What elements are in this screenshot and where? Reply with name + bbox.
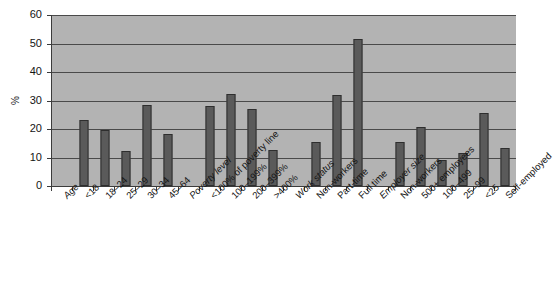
bar xyxy=(227,94,236,186)
x-tick-mark xyxy=(51,187,52,191)
y-tick-label: 20 xyxy=(18,123,42,134)
x-tick-mark xyxy=(135,187,136,191)
bar-slot xyxy=(368,15,389,186)
bar-slot xyxy=(305,15,326,186)
bar-slot xyxy=(263,15,284,186)
bar-slot xyxy=(453,15,474,186)
bar xyxy=(142,105,151,186)
bar-slot xyxy=(495,15,516,186)
bar-slot xyxy=(242,15,263,186)
x-tick-mark xyxy=(72,187,73,191)
bar-slot xyxy=(432,15,453,186)
bar-slot xyxy=(73,15,94,186)
bar xyxy=(501,148,510,186)
bar-slot xyxy=(136,15,157,186)
bar xyxy=(206,106,215,186)
plot-area xyxy=(51,15,516,187)
x-tick-mark xyxy=(93,187,94,191)
bar-slot xyxy=(221,15,242,186)
bar-slot xyxy=(347,15,368,186)
x-tick-mark xyxy=(431,187,432,191)
bar xyxy=(311,142,320,186)
x-tick-mark xyxy=(388,187,389,191)
x-tick-mark xyxy=(114,187,115,191)
bar xyxy=(480,113,489,186)
x-tick-mark xyxy=(452,187,453,191)
bar-slot xyxy=(326,15,347,186)
bars-layer xyxy=(52,15,516,186)
x-tick-mark xyxy=(283,187,284,191)
bar-slot xyxy=(474,15,495,186)
x-tick-mark xyxy=(410,187,411,191)
bar-slot xyxy=(115,15,136,186)
y-tick-label: 0 xyxy=(18,180,42,191)
bar xyxy=(269,150,278,186)
bar xyxy=(332,95,341,186)
bar xyxy=(163,134,172,186)
x-tick-mark xyxy=(515,187,516,191)
bar xyxy=(438,160,447,186)
bar-slot xyxy=(179,15,200,186)
bar xyxy=(395,142,404,186)
x-tick-mark xyxy=(325,187,326,191)
y-tick-label: 50 xyxy=(18,38,42,49)
y-tick-label: 10 xyxy=(18,152,42,163)
bar xyxy=(459,153,468,186)
x-tick-mark xyxy=(241,187,242,191)
bar-slot xyxy=(411,15,432,186)
bar xyxy=(79,120,88,186)
bar-slot xyxy=(157,15,178,186)
bar-slot xyxy=(389,15,410,186)
bar-slot xyxy=(52,15,73,186)
x-tick-mark xyxy=(494,187,495,191)
x-tick-mark xyxy=(473,187,474,191)
y-tick-label: 60 xyxy=(18,9,42,20)
bar xyxy=(353,39,362,186)
bar xyxy=(248,109,257,186)
x-tick-mark xyxy=(346,187,347,191)
y-tick-label: 40 xyxy=(18,66,42,77)
x-tick-mark xyxy=(367,187,368,191)
bar-slot xyxy=(284,15,305,186)
x-tick-mark xyxy=(304,187,305,191)
y-tick-label: 30 xyxy=(18,95,42,106)
x-tick-mark xyxy=(262,187,263,191)
x-tick-mark xyxy=(220,187,221,191)
bar-slot xyxy=(200,15,221,186)
bar xyxy=(100,130,109,186)
bar-slot xyxy=(94,15,115,186)
x-tick-mark xyxy=(178,187,179,191)
bar xyxy=(121,151,130,186)
bar xyxy=(417,127,426,186)
x-tick-mark xyxy=(156,187,157,191)
x-tick-mark xyxy=(199,187,200,191)
